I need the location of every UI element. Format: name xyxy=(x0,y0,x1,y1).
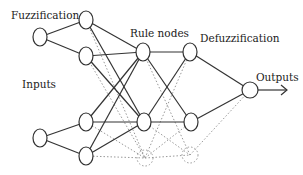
fuzz-node-4 xyxy=(79,147,93,165)
rule-node-1 xyxy=(136,43,150,61)
defuzz-node-1 xyxy=(183,43,197,61)
fuzz-node-1 xyxy=(79,11,93,29)
fuzz-node-3 xyxy=(79,113,93,131)
fuzz-node-2 xyxy=(79,47,93,65)
rule-node-2 xyxy=(137,113,151,131)
label-rule-nodes: Rule nodes xyxy=(130,28,189,39)
defuzz-node-2 xyxy=(184,113,198,131)
input-node-1 xyxy=(33,28,47,46)
label-inputs: Inputs xyxy=(22,79,56,90)
label-defuzzification: Defuzzification xyxy=(200,33,280,44)
label-fuzzification: Fuzzification xyxy=(11,10,79,21)
input-node-2 xyxy=(33,129,47,147)
label-outputs: Outputs xyxy=(256,72,299,83)
output-node xyxy=(242,82,258,98)
